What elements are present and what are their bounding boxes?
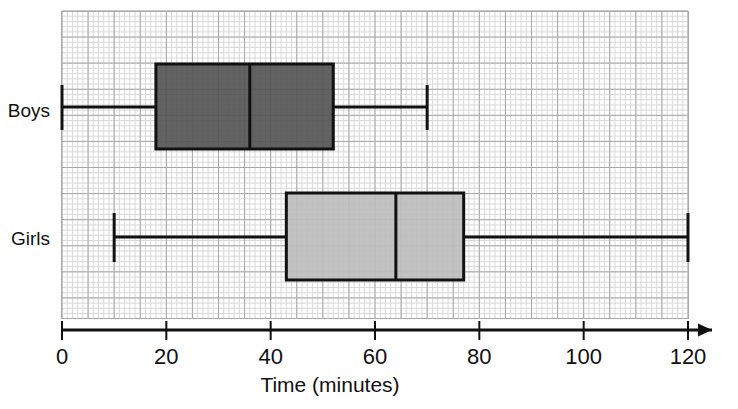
x-tick-label-60: 60 bbox=[363, 344, 387, 369]
x-tick-label-20: 20 bbox=[154, 344, 178, 369]
x-tick-label-40: 40 bbox=[258, 344, 282, 369]
x-tick-label-0: 0 bbox=[56, 344, 68, 369]
interquartile-box bbox=[156, 64, 333, 149]
x-axis-title: Time (minutes) bbox=[260, 373, 399, 396]
chart-canvas: 020406080100120 Boys Girls Time (minutes… bbox=[0, 0, 738, 409]
x-tick-label-120: 120 bbox=[670, 344, 707, 369]
boxplot-figure: 020406080100120 Boys Girls Time (minutes… bbox=[0, 0, 738, 409]
x-tick-label-80: 80 bbox=[467, 344, 491, 369]
x-tick-label-100: 100 bbox=[565, 344, 602, 369]
interquartile-box bbox=[286, 193, 463, 280]
category-label-girls: Girls bbox=[11, 228, 50, 249]
category-label-boys: Boys bbox=[8, 100, 50, 121]
